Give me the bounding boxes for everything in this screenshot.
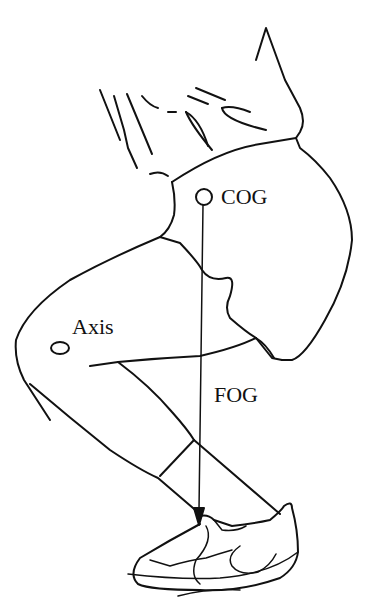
fog-arrowhead-icon <box>194 508 204 525</box>
shoe-detail <box>150 550 232 566</box>
waist-line <box>172 138 296 182</box>
arm-line <box>196 88 225 100</box>
arm-line <box>222 108 266 130</box>
arm-line <box>222 107 250 112</box>
figure-drawing <box>0 0 375 597</box>
fog-line <box>199 205 203 510</box>
cog-marker <box>196 189 212 205</box>
axis-marker <box>51 342 69 354</box>
arm-line <box>100 90 120 140</box>
shoe-detail <box>230 546 276 573</box>
shin-back <box>118 362 194 440</box>
cog-label: COG <box>221 186 267 208</box>
hand-line <box>150 172 168 176</box>
arm-line <box>186 112 212 150</box>
axis-label: Axis <box>72 316 114 338</box>
torso-outline <box>256 28 352 360</box>
shin-front <box>30 384 200 514</box>
shoe-detail <box>194 526 209 584</box>
arm-line <box>188 96 208 104</box>
sock-band <box>160 440 194 476</box>
fog-label: FOG <box>214 384 258 406</box>
arm-line <box>142 96 158 108</box>
thigh-bottom <box>90 338 256 366</box>
squat-diagram: COG Axis FOG <box>0 0 375 597</box>
sock-front <box>194 440 280 514</box>
